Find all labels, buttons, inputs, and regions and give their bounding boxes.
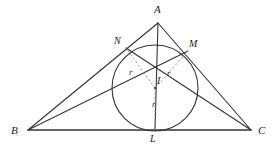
vertex-label-b: B: [11, 125, 18, 136]
geometry-figure: A B C N M L I r r r: [0, 0, 277, 156]
geometry-canvas: [0, 0, 277, 156]
vertex-label-c: C: [258, 125, 265, 136]
radius-label-right: r: [167, 69, 171, 78]
side-ab: [28, 23, 158, 130]
vertex-label-a: A: [154, 4, 161, 15]
radius-label-bottom: r: [152, 100, 156, 109]
tangent-label-m: M: [189, 39, 197, 49]
incenter-label-i: I: [157, 76, 160, 86]
side-ac: [158, 23, 251, 130]
incenter-point: [154, 87, 156, 89]
tangent-label-l: L: [150, 134, 156, 144]
radius-label-left: r: [129, 68, 133, 77]
cevian-b-to-m: [28, 51, 188, 130]
tangent-label-n: N: [114, 36, 121, 46]
